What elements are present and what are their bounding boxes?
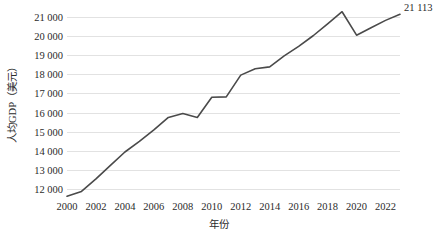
x-axis-tick-labels: 2000200220042006200820102012201420162018… bbox=[67, 201, 400, 217]
y-axis-tick-label: 21 000 bbox=[34, 11, 63, 22]
x-axis-tick-label: 2012 bbox=[230, 201, 251, 212]
x-axis-tick-label: 2014 bbox=[259, 201, 280, 212]
y-axis-title: 人均GDP（美元） bbox=[0, 0, 22, 205]
x-axis-tick-label: 2022 bbox=[375, 201, 396, 212]
series-line bbox=[67, 5, 400, 201]
y-axis-tick-label: 16 000 bbox=[34, 107, 63, 118]
y-axis-tick-label: 18 000 bbox=[34, 69, 63, 80]
end-value-label: 21 113 bbox=[404, 2, 433, 13]
y-axis-tick-label: 13 000 bbox=[34, 165, 63, 176]
y-axis-title-text: 人均GDP（美元） bbox=[4, 62, 19, 143]
line-chart: 人均GDP（美元） 21 00020 00019 00018 00017 000… bbox=[0, 0, 437, 235]
y-axis-tick-label: 14 000 bbox=[34, 146, 63, 157]
x-axis-tick-label: 2018 bbox=[317, 201, 338, 212]
x-axis-tick-label: 2008 bbox=[172, 201, 193, 212]
x-axis-tick-label: 2004 bbox=[114, 201, 135, 212]
y-axis-tick-label: 20 000 bbox=[34, 30, 63, 41]
y-axis-tick-label: 12 000 bbox=[34, 184, 63, 195]
x-axis-tick-label: 2002 bbox=[85, 201, 106, 212]
x-axis-tick-label: 2000 bbox=[57, 201, 78, 212]
y-axis-tick-label: 19 000 bbox=[34, 49, 63, 60]
x-axis-tick-label: 2016 bbox=[288, 201, 309, 212]
plot-area bbox=[67, 5, 400, 201]
y-axis-tick-label: 17 000 bbox=[34, 88, 63, 99]
y-axis-tick-labels: 21 00020 00019 00018 00017 00016 00015 0… bbox=[20, 0, 66, 205]
x-axis-tick-label: 2006 bbox=[143, 201, 164, 212]
x-axis-tick-label: 2010 bbox=[201, 201, 222, 212]
y-axis-tick-label: 15 000 bbox=[34, 126, 63, 137]
x-axis-tick-label: 2020 bbox=[346, 201, 367, 212]
x-axis-title: 年份 bbox=[0, 216, 437, 231]
